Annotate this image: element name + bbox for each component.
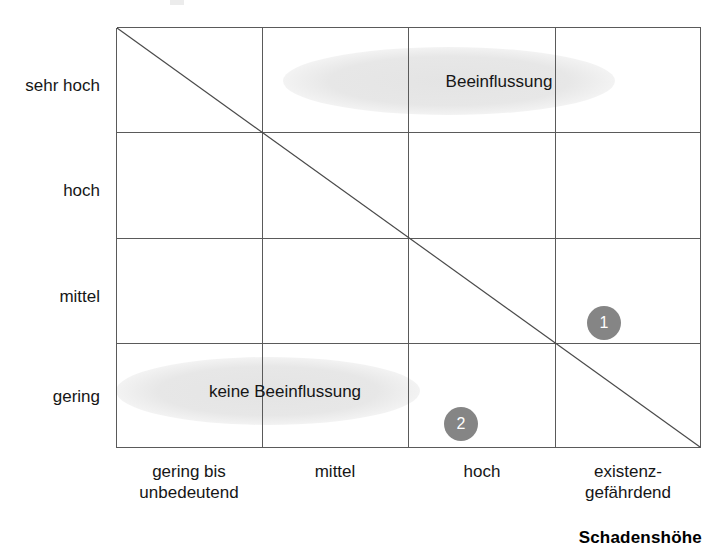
data-marker-1[interactable]: 1 xyxy=(587,306,621,340)
x-axis-label-gering-bis-unbedeutend: gering bis unbedeutend xyxy=(116,461,262,503)
data-marker-2[interactable]: 2 xyxy=(444,407,478,441)
x-axis-label-line1: hoch xyxy=(464,462,501,481)
x-axis-label-hoch: hoch xyxy=(409,461,555,482)
cloud-label-beeinflussung: Beeinflussung xyxy=(333,72,665,92)
scan-artifact xyxy=(170,0,184,5)
x-axis-title: Schadenshöhe xyxy=(380,528,702,548)
x-axis-label-mittel: mittel xyxy=(262,461,408,482)
y-axis-label-hoch: hoch xyxy=(0,181,100,201)
risk-matrix-figure: sehr hoch hoch mittel gering xyxy=(0,0,720,556)
y-axis-label-sehr-hoch: sehr hoch xyxy=(0,76,100,96)
cloud-label-keine-beeinflussung: keine Beeinflussung xyxy=(133,382,437,402)
y-axis-label-mittel: mittel xyxy=(0,287,100,307)
x-axis-label-line1: gering bis xyxy=(152,462,226,481)
y-axis-label-gering: gering xyxy=(0,387,100,407)
x-axis-label-line2: gefährdend xyxy=(555,482,701,503)
x-axis-label-line1: existenz- xyxy=(594,462,662,481)
x-axis-label-existenzgefaehrdend: existenz- gefährdend xyxy=(555,461,701,503)
x-axis-label-line1: mittel xyxy=(315,462,356,481)
x-axis-label-line2: unbedeutend xyxy=(116,482,262,503)
